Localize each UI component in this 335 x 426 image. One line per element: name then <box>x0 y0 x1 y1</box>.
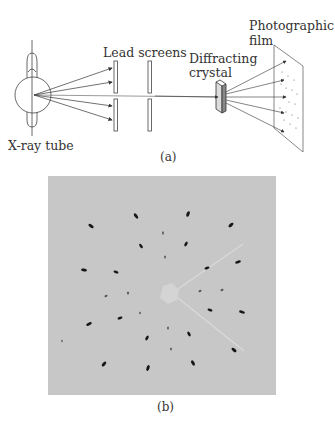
diffracting-crystal-label-line1: Diffracting <box>189 52 257 66</box>
photographic-film-label-line1: Photographic <box>249 19 334 33</box>
beam-stop-spot <box>160 283 179 304</box>
xray-tube-icon <box>15 40 51 136</box>
photographic-film-label-line2: film <box>249 34 273 48</box>
diffracting-crystal-icon <box>216 80 226 113</box>
figure-a-caption: (a) <box>160 150 177 164</box>
xray-tube-label: X-ray tube <box>8 139 74 153</box>
lead-screens-label: Lead screens <box>103 46 187 60</box>
photographic-film-icon <box>274 45 303 152</box>
laue-diffraction-photograph <box>48 176 276 395</box>
figure-b-caption: (b) <box>157 400 174 414</box>
diffracting-crystal-label-line2: crystal <box>189 66 232 80</box>
